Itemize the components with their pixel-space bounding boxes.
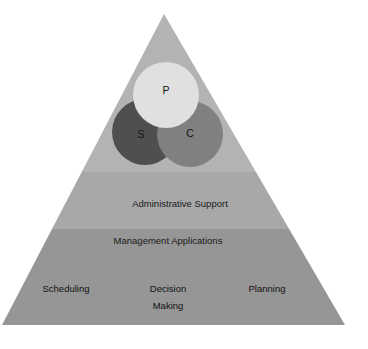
pyramid-diagram: P S C Administrative Support Management … (0, 0, 368, 349)
tier-middle-label: Administrative Support (132, 198, 228, 209)
base-label-decision: Decision (150, 283, 186, 294)
base-label-scheduling: Scheduling (42, 283, 89, 294)
tier-bottom-label: Management Applications (114, 235, 223, 246)
pyramid-svg: P S C Administrative Support Management … (0, 0, 368, 349)
venn-circle-group (112, 62, 223, 167)
base-label-planning: Planning (249, 283, 286, 294)
base-label-making: Making (153, 300, 184, 311)
circle-c-label: C (186, 127, 194, 139)
circle-p-label: P (162, 84, 169, 96)
circle-s-label: S (137, 128, 144, 140)
